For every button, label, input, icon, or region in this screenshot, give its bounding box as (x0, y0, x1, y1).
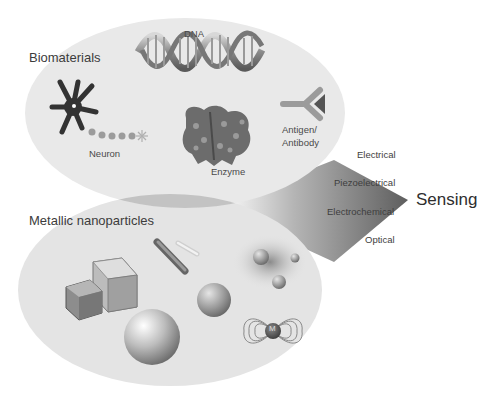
label-magnetic-m: M (269, 324, 276, 333)
diagram-canvas: Biomaterials DNA Neuron Enzyme Antigen/ … (0, 0, 496, 402)
label-antibody: Antibody (282, 137, 319, 148)
label-enzyme: Enzyme (211, 166, 245, 177)
label-neuron: Neuron (89, 148, 120, 159)
mode-piezoelectrical: Piezoelectrical (334, 177, 395, 188)
group-title-metallic-nanoparticles: Metallic nanoparticles (29, 213, 154, 228)
group-title-biomaterials: Biomaterials (29, 50, 101, 65)
mode-electrical: Electrical (357, 149, 396, 160)
mode-electrochemical: Electrochemical (327, 206, 394, 217)
label-antigen: Antigen/ (282, 124, 317, 135)
plasmonic-particles-icon (232, 234, 308, 290)
mode-optical: Optical (365, 234, 395, 245)
output-sensing: Sensing (416, 190, 477, 210)
label-dna: DNA (184, 28, 204, 39)
